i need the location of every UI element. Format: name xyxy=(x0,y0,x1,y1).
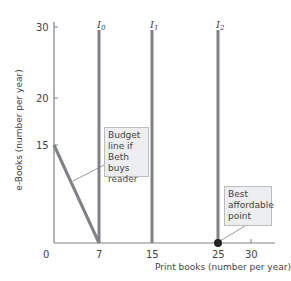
y-tick-label-15: 15 xyxy=(36,140,49,151)
x-tick-label-25: 25 xyxy=(212,249,225,260)
y-tick-label-20: 20 xyxy=(36,93,49,104)
curve-label-i0: I0 xyxy=(96,19,106,32)
budget-callout-line-3: Beth buys xyxy=(108,152,145,174)
best-callout-line-1: Best xyxy=(228,189,268,200)
best-point-callout-leader xyxy=(220,226,245,241)
budget-callout-line-2: line if xyxy=(108,141,145,152)
x-tick-label-7: 7 xyxy=(96,249,102,260)
y-axis-title: e-Books (number per year) xyxy=(14,69,24,190)
curve-label-i2: I2 xyxy=(215,19,225,32)
best-callout-line-3: point xyxy=(228,211,268,222)
y-tick-label-30: 30 xyxy=(36,22,49,33)
budget-callout-line-4: reader xyxy=(108,174,145,185)
x-tick-label-0: 0 xyxy=(43,249,49,260)
best-callout-line-2: affordable xyxy=(228,200,268,211)
curve-label-i1: I1 xyxy=(149,19,158,32)
budget-line-callout: Budget line if Beth buys reader xyxy=(104,127,149,177)
budget-line xyxy=(54,145,99,243)
x-tick-label-30: 30 xyxy=(245,249,258,260)
x-tick-label-15: 15 xyxy=(146,249,159,260)
budget-callout-line-1: Budget xyxy=(108,130,145,141)
best-point-callout: Best affordable point xyxy=(224,186,272,226)
x-axis-title: Print books (number per year) xyxy=(155,262,291,272)
best-affordable-point xyxy=(214,239,222,247)
